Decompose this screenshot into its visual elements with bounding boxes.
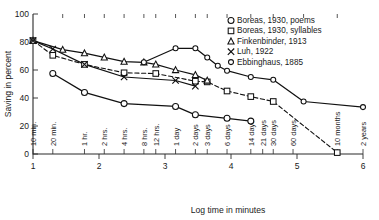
series-marker-4 <box>271 77 276 82</box>
y-axis-tick-label: 40 <box>20 93 30 103</box>
series-marker-0 <box>50 71 56 77</box>
legend-label-4: Ebbinghaus, 1885 <box>237 58 303 67</box>
series-marker-0 <box>224 115 230 121</box>
series-marker-0 <box>192 112 198 118</box>
y-axis-tick-label: 80 <box>20 37 30 47</box>
x-category-label: 4 hrs. <box>120 128 129 146</box>
series-marker-1 <box>334 150 340 156</box>
series-marker-1 <box>153 71 159 77</box>
legend-marker-2 <box>228 38 234 44</box>
x-category-label: 1 day <box>172 128 181 146</box>
y-axis-tick-label: 60 <box>20 65 30 75</box>
x-category-label: 1 hr. <box>80 132 89 146</box>
x-axis-tick-label: 3 <box>163 161 168 171</box>
x-category-label: 30 days <box>269 120 278 146</box>
series-marker-0 <box>81 89 87 95</box>
series-marker-4 <box>215 63 220 68</box>
series-line-0 <box>53 74 251 122</box>
x-axis-title: Log time in minutes <box>191 205 266 215</box>
series-marker-4 <box>205 55 210 60</box>
x-category-label: 2 years <box>359 121 368 146</box>
series-marker-0 <box>121 101 127 107</box>
y-axis-title: Saving in percent <box>3 50 13 117</box>
series-marker-4 <box>173 46 178 51</box>
series-marker-4 <box>248 75 253 80</box>
x-category-label: 6 days <box>223 124 232 146</box>
legend-marker-3 <box>228 49 234 55</box>
series-marker-4 <box>301 99 306 104</box>
x-category-label: 2 hrs. <box>100 128 109 146</box>
series-marker-1 <box>224 88 230 94</box>
x-axis-tick-label: 2 <box>97 161 102 171</box>
x-category-label: 2 days <box>191 124 200 146</box>
series-marker-0 <box>173 103 179 109</box>
series-marker-0 <box>248 118 254 124</box>
legend-marker-0 <box>228 18 234 24</box>
series-marker-4 <box>193 46 198 51</box>
x-category-label: 20 min. <box>49 122 58 146</box>
x-category-label: 12 hrs. <box>152 123 161 146</box>
legend-label-2: Finkenbinder, 1913 <box>237 37 307 46</box>
series-marker-1 <box>50 53 56 59</box>
x-axis-tick-label: 1 <box>31 161 36 171</box>
x-axis-tick-label: 5 <box>295 161 300 171</box>
series-marker-1 <box>193 78 199 84</box>
legend-label-0: Boreas, 1930, poems <box>237 16 315 25</box>
y-axis-tick-label: 100 <box>15 9 29 19</box>
chart-canvas: 02040608010012345610 min.20 min.1 hr.2 h… <box>0 0 379 220</box>
retention-savings-chart: 02040608010012345610 min.20 min.1 hr.2 h… <box>0 0 379 220</box>
legend-label-3: Luh, 1922 <box>237 47 274 56</box>
y-axis-tick-label: 0 <box>24 149 29 159</box>
legend-label-1: Boreas, 1930, syllables <box>237 26 322 35</box>
x-category-label: 60 days <box>289 120 298 146</box>
x-category-label: 8 hrs. <box>140 128 149 146</box>
legend-marker-4 <box>229 60 234 65</box>
series-marker-4 <box>141 60 146 65</box>
x-category-label: 21 days <box>259 120 268 146</box>
series-marker-1 <box>248 94 254 100</box>
series-marker-4 <box>361 105 366 110</box>
x-axis-tick-label: 6 <box>361 161 366 171</box>
y-axis-tick-label: 20 <box>20 121 30 131</box>
legend-marker-1 <box>228 28 234 34</box>
series-line-2 <box>33 41 207 81</box>
series-marker-1 <box>270 99 276 105</box>
series-marker-4 <box>225 68 230 73</box>
x-category-label: 10 min. <box>29 122 38 146</box>
x-category-label: 10 months <box>333 111 342 146</box>
x-category-label: 3 days <box>203 124 212 146</box>
x-axis-tick-label: 4 <box>229 161 234 171</box>
